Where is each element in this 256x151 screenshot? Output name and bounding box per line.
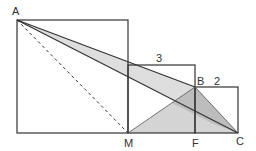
label-small-side: 2 bbox=[214, 75, 220, 87]
label-middle-side: 3 bbox=[156, 52, 162, 64]
geometry-diagram: A B C M F 3 2 bbox=[0, 0, 256, 151]
label-F: F bbox=[192, 137, 199, 149]
label-A: A bbox=[12, 5, 20, 17]
segment-AB bbox=[17, 20, 195, 87]
label-B: B bbox=[197, 75, 204, 87]
label-M: M bbox=[124, 137, 133, 149]
label-C: C bbox=[236, 135, 244, 147]
segment-AM-dashed bbox=[17, 20, 128, 133]
